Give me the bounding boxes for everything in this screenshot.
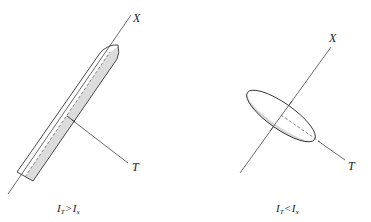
right-x-label: X <box>329 32 336 44</box>
moment-of-inertia-diagram: X T X T IT>Ix IT<Ix <box>0 0 371 222</box>
left-caption-rhs-sub: x <box>76 208 79 216</box>
left-caption-lhs-sub: T <box>61 208 65 216</box>
right-disk-figure <box>0 0 371 222</box>
left-caption: IT>Ix <box>57 203 80 216</box>
right-caption-lhs-sub: T <box>280 208 284 216</box>
left-caption-operator: > <box>66 202 72 214</box>
right-t-label: T <box>348 160 355 172</box>
right-caption-operator: < <box>285 202 291 214</box>
right-caption-rhs-sub: x <box>295 208 298 216</box>
right-caption: IT<Ix <box>276 203 299 216</box>
left-x-label: X <box>133 12 140 24</box>
right-t-axis-line <box>318 141 345 160</box>
left-t-label: T <box>132 161 139 173</box>
